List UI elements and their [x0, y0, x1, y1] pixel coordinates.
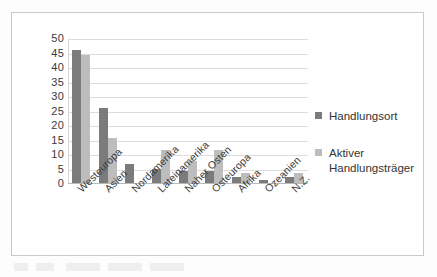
legend-label: Aktiver Handlungsträger — [329, 147, 414, 174]
legend-entry-handlungsort[interactable]: Handlungsort — [315, 109, 435, 124]
chart-legend: Handlungsort Aktiver Handlungsträger — [315, 109, 435, 198]
legend-swatch-icon — [315, 149, 322, 156]
y-axis-tick-label: 35 — [51, 77, 64, 88]
bar-group — [68, 38, 95, 183]
chart-frame: 05101520253035404550 WesteuropaAsienNord… — [11, 12, 424, 256]
scan-artifact — [14, 263, 184, 271]
bar-group — [121, 38, 148, 183]
bar[interactable] — [81, 55, 90, 183]
legend-swatch-icon — [315, 112, 322, 119]
y-axis-tick-label: 40 — [51, 62, 64, 73]
x-axis: WesteuropaAsienNordamerikaLateinamerikaN… — [12, 186, 312, 252]
legend-entry-aktiver-handlungstraeger[interactable]: Aktiver Handlungsträger — [315, 146, 435, 176]
bar-group — [255, 38, 282, 183]
y-axis-tick-label: 45 — [51, 48, 64, 59]
y-axis: 05101520253035404550 — [38, 33, 64, 190]
y-axis-tick-label: 20 — [51, 120, 64, 131]
legend-label: Handlungsort — [329, 110, 397, 122]
y-axis-tick-label: 15 — [51, 135, 64, 146]
scanned-page: 05101520253035404550 WesteuropaAsienNord… — [0, 0, 437, 277]
y-axis-tick-label: 50 — [51, 33, 64, 44]
y-axis-tick-label: 5 — [58, 164, 64, 175]
y-axis-tick-label: 30 — [51, 91, 64, 102]
y-axis-tick-label: 25 — [51, 106, 64, 117]
y-axis-tick-label: 10 — [51, 149, 64, 160]
bar[interactable] — [72, 50, 81, 183]
